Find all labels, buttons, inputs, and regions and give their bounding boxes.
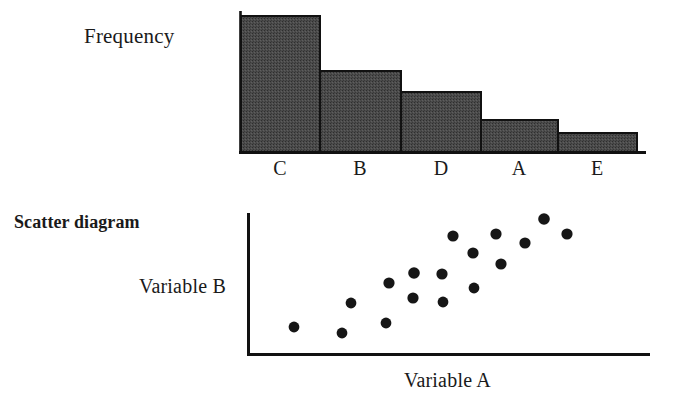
bar-D	[401, 92, 481, 152]
bar-chart-y-axis-label: Frequency	[84, 26, 174, 47]
bar-A	[481, 120, 558, 152]
figure-canvas	[0, 0, 676, 398]
statistics-figure: Frequency C B D A E Scatter diagram Vari…	[0, 0, 676, 398]
scatter-point	[408, 267, 420, 279]
scatter-point	[447, 230, 458, 241]
bar-C	[241, 16, 320, 152]
bar-category-label-E: E	[591, 158, 603, 178]
scatter-point	[495, 258, 506, 269]
bar-category-label-B: B	[353, 158, 366, 178]
scatter-point	[561, 228, 572, 239]
scatter-point	[436, 268, 447, 279]
scatter-point	[438, 297, 449, 308]
scatter-point	[289, 322, 300, 333]
scatter-point	[490, 228, 501, 239]
scatter-y-axis-label: Variable B	[139, 276, 226, 296]
bar-chart	[239, 11, 646, 153]
bar-category-label-C: C	[273, 158, 286, 178]
scatter-points	[289, 213, 573, 338]
scatter-point	[538, 213, 550, 225]
scatter-point	[381, 318, 392, 329]
scatter-point	[346, 298, 357, 309]
scatter-point	[519, 237, 530, 248]
scatter-point	[407, 292, 418, 303]
scatter-point	[337, 328, 348, 339]
scatter-diagram-title: Scatter diagram	[14, 213, 140, 231]
scatter-x-axis-label: Variable A	[404, 370, 491, 390]
scatter-point	[383, 277, 394, 288]
scatter-point	[469, 283, 480, 294]
bar-B	[320, 71, 401, 152]
bar-category-label-A: A	[512, 158, 526, 178]
scatter-diagram	[247, 213, 650, 355]
scatter-point	[467, 247, 478, 258]
bar-category-label-D: D	[434, 158, 448, 178]
bar-E	[558, 133, 637, 152]
